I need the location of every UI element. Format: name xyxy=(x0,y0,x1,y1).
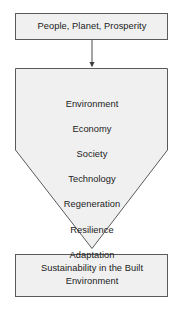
diagram-canvas xyxy=(0,0,180,317)
top-box-shape xyxy=(16,14,168,40)
pentagon-shape xyxy=(16,69,168,249)
bottom-box-shape xyxy=(16,255,168,297)
flow-diagram: People, Planet, Prosperity Environment E… xyxy=(0,0,180,317)
